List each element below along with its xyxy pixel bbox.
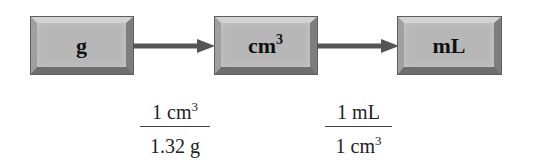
unit-box-label: g [76,33,87,57]
numerator-exponent: 3 [191,99,198,114]
unit-box-label: cm3 [248,33,283,57]
fraction-numerator: 1 mL [325,95,392,124]
denominator-text: 1.32 g [150,135,200,157]
fraction-bar [325,126,392,127]
arrow-right-icon [133,39,215,53]
denominator-text: 1 cm [336,135,375,157]
unit-box-milliliters: mL [398,17,501,74]
unit-box-cubic-centimeters: cm3 [215,17,317,74]
arrow-right-icon [317,39,399,53]
unit-box-label: mL [433,33,466,57]
unit-box-grams: g [31,17,133,74]
conversion-factor-volume: 1 mL 1 cm3 [325,95,392,158]
fraction-bar [140,126,210,127]
fraction-denominator: 1.32 g [140,129,210,158]
unit-exponent: 3 [276,32,283,47]
numerator-text: 1 mL [337,101,380,123]
fraction-numerator: 1 cm3 [140,95,210,124]
denominator-exponent: 3 [375,133,382,148]
conversion-factor-density: 1 cm3 1.32 g [140,95,210,158]
numerator-text: 1 cm [152,101,191,123]
fraction-denominator: 1 cm3 [325,129,392,158]
unit-text: g [76,33,87,58]
unit-text: cm [248,33,276,58]
unit-text: mL [433,33,466,58]
